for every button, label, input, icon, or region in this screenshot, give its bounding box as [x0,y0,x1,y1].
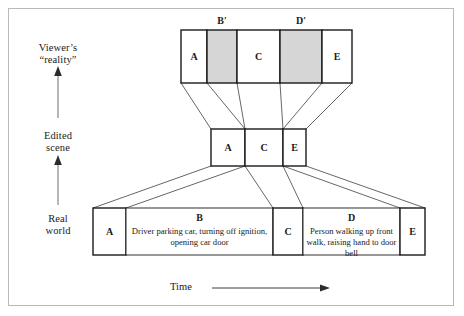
segment-rw-b-desc: Driver parking car, turning off ignition… [128,226,271,248]
segment-label-vr-c: C [237,51,280,63]
connectors-edited-to-viewers-reality [181,83,352,129]
segment-label-es-c: C [245,142,283,154]
top-label-bprime: B′ [202,15,242,27]
connectors-realworld-to-edited [93,166,425,208]
segment-label-rw-a: A [93,226,126,238]
axis-label-edited-scene-line2: scene [14,142,102,154]
segment-vr-bprime [207,30,237,83]
segment-rw-b-content: B Driver parking car, turning off igniti… [128,212,271,248]
editing-continuity-figure: Viewer’s “reality” Edited scene Real wor… [0,0,464,316]
axis-label-viewers-reality: Viewer’s “reality” [14,42,102,67]
segment-rw-d-desc: Person walking up front walk, raising ha… [305,226,398,259]
segment-rw-d-content: D Person walking up front walk, raising … [305,212,398,259]
axis-label-edited-scene: Edited scene [14,130,102,155]
axis-label-viewers-reality-line1: Viewer’s [14,42,102,54]
axis-label-real-world-line1: Real [14,213,102,225]
segment-label-vr-e: E [322,51,352,63]
axis-label-edited-scene-line1: Edited [14,130,102,142]
segment-label-rw-e: E [400,226,425,238]
segment-label-rw-c: C [273,226,303,238]
top-label-dprime: D′ [281,15,321,27]
axis-label-real-world-line2: world [14,225,102,237]
time-axis-label: Time [170,281,192,293]
segment-label-vr-a: A [181,51,207,63]
time-axis-arrow [212,284,330,291]
axis-label-viewers-reality-line2: “reality” [14,54,102,66]
segment-label-es-a: A [211,142,245,154]
segment-rw-b-title: B [128,212,271,224]
axis-label-real-world: Real world [14,213,102,238]
segment-rw-d-title: D [305,212,398,224]
segment-vr-dprime [280,30,322,83]
segment-label-es-e: E [283,142,306,154]
